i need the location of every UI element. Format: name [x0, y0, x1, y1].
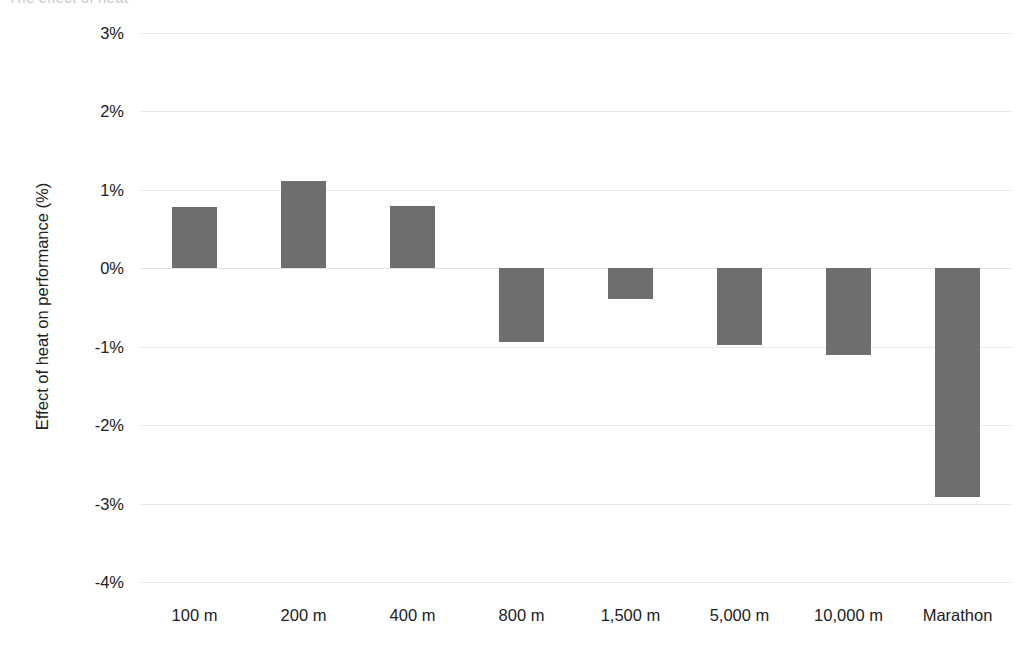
- y-tick-label: 0%: [0, 259, 124, 278]
- gridline-neg2: [140, 425, 1012, 426]
- gridline-neg1: [140, 347, 1012, 348]
- bar: [499, 268, 544, 342]
- gridline-neg4: [140, 582, 1012, 583]
- y-tick-label: 1%: [0, 180, 124, 199]
- x-tick-label: 5,000 m: [710, 606, 770, 625]
- gridline-3: [140, 33, 1012, 34]
- gridline-1: [140, 190, 1012, 191]
- x-tick-label: 200 m: [281, 606, 327, 625]
- y-axis-tick-labels: 3%2%1%0%-1%-2%-3%-4%: [0, 0, 124, 657]
- y-tick-label: -1%: [0, 337, 124, 356]
- bar-chart-figure: Effect of heat on performance (%) 3%2%1%…: [0, 0, 1020, 657]
- gridline-2: [140, 111, 1012, 112]
- x-tick-label: Marathon: [923, 606, 993, 625]
- bar: [172, 207, 217, 268]
- bar: [717, 268, 762, 345]
- x-axis-tick-labels: 100 m200 m400 m800 m1,500 m5,000 m10,000…: [0, 606, 1020, 636]
- y-tick-label: 3%: [0, 24, 124, 43]
- x-tick-label: 400 m: [390, 606, 436, 625]
- x-tick-label: 800 m: [499, 606, 545, 625]
- x-tick-label: 10,000 m: [814, 606, 883, 625]
- y-tick-label: -4%: [0, 573, 124, 592]
- gridline-0: [140, 268, 1012, 269]
- bar: [935, 268, 980, 496]
- bar: [281, 181, 326, 268]
- y-tick-label: -2%: [0, 416, 124, 435]
- bar: [608, 268, 653, 299]
- y-tick-label: -3%: [0, 494, 124, 513]
- plot-area: [140, 33, 1012, 582]
- x-tick-label: 100 m: [172, 606, 218, 625]
- bar: [390, 206, 435, 268]
- x-tick-label: 1,500 m: [601, 606, 661, 625]
- y-tick-label: 2%: [0, 102, 124, 121]
- bar: [826, 268, 871, 355]
- gridline-neg3: [140, 504, 1012, 505]
